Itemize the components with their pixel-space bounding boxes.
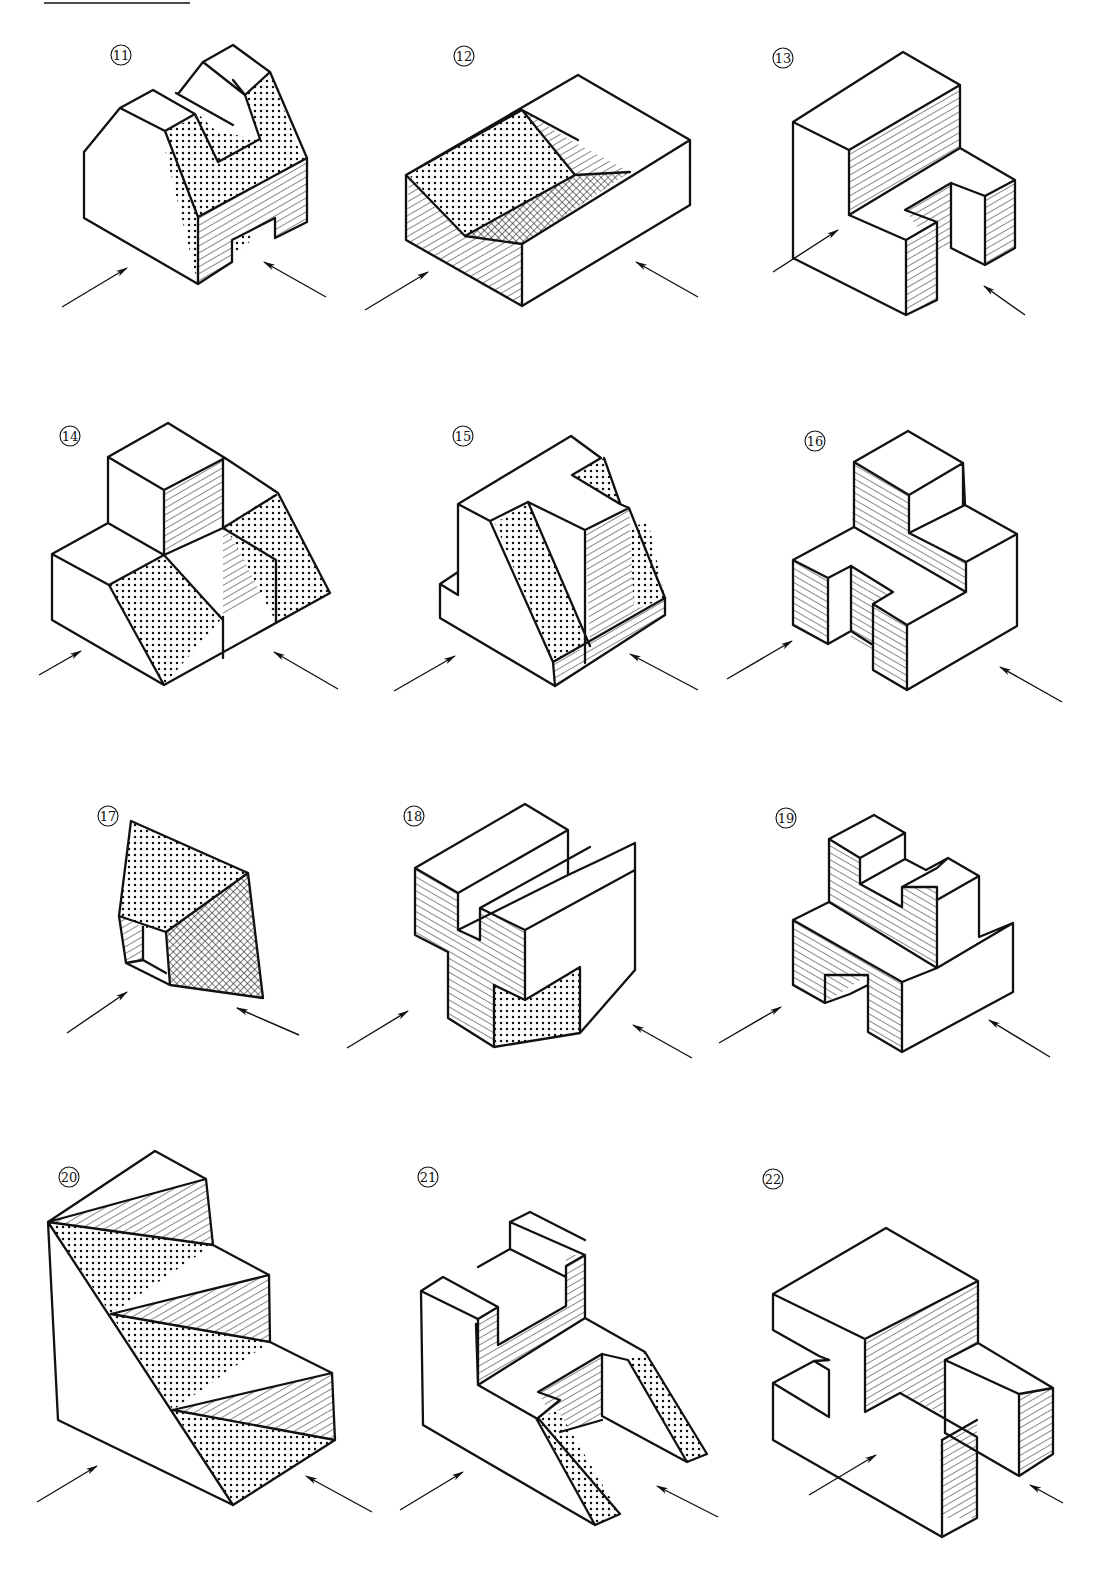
view-arrow-right [264,262,326,297]
section-face [793,920,902,1052]
view-arrow-right [1030,1485,1063,1503]
figure-number: 19 [778,811,795,826]
figure-11[interactable]: 11 [62,45,326,307]
section-face [793,559,828,644]
section-face [873,604,907,690]
view-arrow-left [809,1455,876,1495]
isometric-exercise-sheet: 11 12 13 14 [0,0,1105,1571]
view-arrow-left [719,1007,781,1043]
view-arrow-left [394,656,455,691]
figure-number: 13 [775,51,792,66]
figure-18[interactable]: 18 [347,804,692,1058]
section-face [475,1255,585,1385]
figure-number: 15 [455,429,472,444]
figure-number: 22 [765,1172,782,1187]
view-arrow-left [400,1472,463,1510]
figure-number: 14 [62,429,79,444]
figure-13[interactable]: 13 [773,48,1025,315]
figure-number: 16 [807,434,824,449]
view-arrow-right [657,1486,718,1517]
view-arrow-right [984,286,1025,315]
figure-17[interactable]: 17 [67,806,299,1035]
view-arrow-left [39,651,81,675]
figure-22[interactable]: 22 [763,1169,1063,1537]
figure-14[interactable]: 14 [39,423,338,689]
inclined-face [629,520,665,612]
view-arrow-left [67,992,127,1033]
view-arrow-right [306,1476,372,1512]
view-arrow-left [37,1466,97,1502]
view-arrow-left [727,641,792,679]
section-face [865,1281,978,1414]
figure-number: 20 [61,1170,78,1185]
view-arrow-right [636,262,698,297]
view-arrow-left [62,268,127,307]
figure-12[interactable]: 12 [365,46,698,310]
figure-number: 18 [406,809,423,824]
section-face [1018,1388,1053,1476]
figure-15[interactable]: 15 [394,426,698,691]
view-arrow-left [773,230,838,272]
view-arrow-right [630,654,698,690]
view-arrow-right [1000,667,1062,702]
view-arrow-right [633,1025,692,1058]
figure-20[interactable]: 20 [37,1151,372,1512]
view-arrow-right [237,1008,299,1035]
figure-number: 21 [420,1170,437,1185]
view-arrow-right [274,652,338,689]
figure-number: 11 [113,48,130,63]
figure-number: 17 [100,809,117,824]
view-arrow-left [347,1011,408,1048]
view-arrow-left [365,272,428,310]
figure-16[interactable]: 16 [727,431,1062,702]
figure-number: 12 [456,49,473,64]
inclined-face [628,1352,707,1462]
figure-21[interactable]: 21 [400,1167,718,1525]
view-arrow-right [989,1020,1050,1057]
figure-19[interactable]: 19 [719,808,1050,1057]
